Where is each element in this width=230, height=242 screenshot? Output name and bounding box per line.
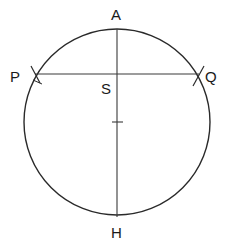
arc-mark-P-2: [33, 80, 42, 84]
label-A: A: [111, 6, 121, 23]
geometry-diagram: A H P Q S: [0, 0, 230, 242]
label-P: P: [10, 68, 20, 85]
label-S: S: [101, 80, 111, 97]
arc-mark-Q-1: [193, 66, 204, 86]
label-H: H: [111, 224, 122, 241]
label-Q: Q: [205, 68, 217, 85]
